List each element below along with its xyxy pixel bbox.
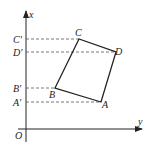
- diagram-canvas: x y O C D B A C' D' B' A': [0, 0, 156, 152]
- vertex-label-d: D: [114, 46, 123, 57]
- projection-label-b: B': [13, 83, 22, 94]
- vertex-label-c: C: [75, 27, 82, 38]
- quadrilateral-abcd: [55, 39, 116, 102]
- origin-label: O: [15, 130, 22, 141]
- vertex-label-b: B: [49, 89, 55, 100]
- vertex-label-a: A: [101, 99, 109, 110]
- y-axis-label: y: [137, 116, 143, 127]
- x-axis-label: x: [28, 9, 34, 20]
- projection-label-d: D': [12, 47, 23, 58]
- projection-label-a: A': [12, 97, 22, 108]
- projection-label-c: C': [13, 34, 23, 45]
